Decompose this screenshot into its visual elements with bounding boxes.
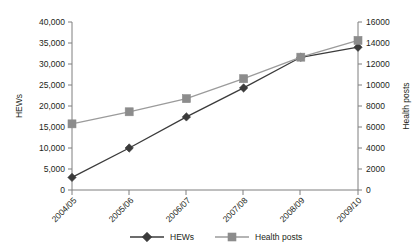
data-point-health-posts-1 [125, 108, 133, 116]
data-point-hews-2 [182, 113, 190, 121]
left-tick-label-1: 5,000 [44, 164, 66, 174]
x-category-label-4: 2008/09 [278, 195, 307, 224]
left-tick-label-6: 30,000 [39, 59, 65, 69]
x-category-label-5: 2009/10 [335, 195, 364, 224]
left-tick-label-2: 10,000 [39, 143, 65, 153]
left-tick-label-3: 15,000 [39, 122, 65, 132]
right-tick-label-6: 12000 [366, 59, 390, 69]
legend-label-health-posts: Health posts [255, 232, 302, 242]
diamond-icon [142, 232, 152, 242]
x-category-label-3: 2007/08 [221, 195, 250, 224]
chart-canvas: 0 5,000 10,000 15,000 20,000 25,000 30,0… [0, 0, 419, 252]
right-axis: 0 2000 4000 6000 8000 10000 12000 14000 … [358, 17, 411, 195]
right-tick-label-5: 10000 [366, 80, 390, 90]
data-point-hews-1 [125, 144, 133, 152]
data-point-health-posts-5 [354, 36, 362, 44]
x-category-label-0: 2004/05 [50, 195, 79, 224]
legend-label-hews: HEWs [170, 232, 194, 242]
right-tick-label-2: 4000 [366, 143, 385, 153]
legend: HEWs Health posts [130, 232, 302, 242]
right-tick-label-0: 0 [366, 185, 371, 195]
right-tick-label-8: 16000 [366, 17, 390, 27]
left-tick-label-7: 35,000 [39, 38, 65, 48]
line-chart: 0 5,000 10,000 15,000 20,000 25,000 30,0… [0, 0, 419, 252]
left-tick-label-8: 40,000 [39, 17, 65, 27]
left-tick-label-0: 0 [60, 185, 65, 195]
right-tick-label-7: 14000 [366, 38, 390, 48]
square-icon [228, 233, 236, 241]
right-tick-label-1: 2000 [366, 164, 385, 174]
right-axis-title: Health posts [401, 82, 411, 129]
data-point-health-posts-2 [182, 95, 190, 103]
plot-area [68, 36, 362, 181]
x-category-label-2: 2006/07 [164, 195, 193, 224]
data-point-health-posts-3 [240, 75, 248, 83]
right-tick-label-3: 6000 [366, 122, 385, 132]
data-point-hews-0 [68, 173, 76, 181]
data-point-hews-3 [239, 84, 247, 92]
data-point-health-posts-0 [68, 120, 76, 128]
x-axis: 2004/05 2005/06 2006/07 2007/08 2008/09 … [50, 190, 364, 224]
left-tick-label-5: 25,000 [39, 80, 65, 90]
right-tick-label-4: 8000 [366, 101, 385, 111]
series-line-hews [72, 47, 358, 177]
left-axis: 0 5,000 10,000 15,000 20,000 25,000 30,0… [14, 17, 72, 195]
left-tick-label-4: 20,000 [39, 101, 65, 111]
x-category-label-1: 2005/06 [107, 195, 136, 224]
series-line-health-posts [72, 40, 358, 123]
left-axis-title: HEWs [14, 94, 24, 118]
data-point-health-posts-4 [297, 53, 305, 61]
